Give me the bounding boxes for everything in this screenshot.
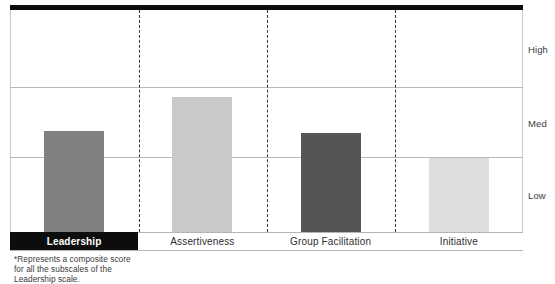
category-label-assertiveness[interactable]: Assertiveness	[138, 232, 266, 250]
category-label-initiative[interactable]: Initiative	[395, 232, 523, 250]
y-axis-label-med: Med	[528, 118, 547, 129]
category-separator-1	[139, 10, 140, 232]
category-separator-2	[267, 10, 268, 232]
footnote-line-2: for all the subscales of the	[14, 264, 244, 274]
y-axis-label-low: Low	[528, 190, 546, 201]
footnote-line-1: *Represents a composite score	[14, 254, 244, 264]
y-axis-label-high: High	[528, 44, 548, 55]
bar-chart: High Med Low Leadership Assertiveness Gr…	[0, 0, 555, 284]
category-label-row: Leadership Assertiveness Group Facilitat…	[10, 232, 523, 251]
category-label-leadership[interactable]: Leadership	[10, 232, 138, 250]
chart-footnote: *Represents a composite score for all th…	[14, 254, 244, 284]
category-separator-3	[395, 10, 396, 232]
category-label-group-facilitation[interactable]: Group Facilitation	[267, 232, 395, 250]
bar-assertiveness[interactable]	[172, 97, 232, 232]
bar-initiative[interactable]	[429, 158, 489, 232]
footnote-line-3: Leadership scale.	[14, 274, 244, 284]
bar-leadership[interactable]	[44, 131, 104, 232]
bar-group-facilitation[interactable]	[301, 133, 361, 232]
